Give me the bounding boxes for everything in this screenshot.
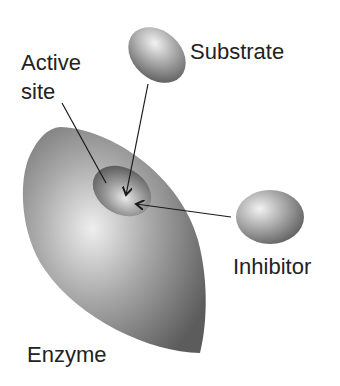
- inhibitor-label: Inhibitor: [233, 255, 311, 279]
- substrate-label: Substrate: [190, 40, 284, 64]
- enzyme-label: Enzyme: [27, 343, 106, 367]
- substrate-shape: [117, 16, 197, 94]
- inhibitor-shape: [236, 190, 304, 244]
- enzyme-shape: [23, 127, 206, 353]
- active-site-label-line2: site: [21, 80, 55, 104]
- active-site-label-line1: Active: [21, 51, 81, 75]
